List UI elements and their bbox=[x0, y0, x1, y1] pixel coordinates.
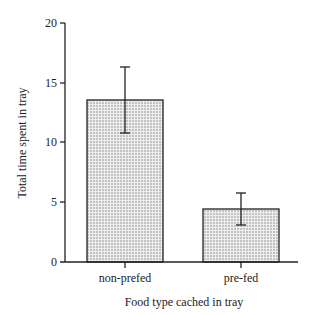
xtick-pre-fed: pre-fed bbox=[224, 271, 259, 285]
ytick-0: 0 bbox=[51, 255, 57, 269]
xtick-non-prefed: non-prefed bbox=[99, 271, 152, 285]
ytick-15: 15 bbox=[45, 76, 57, 90]
y-tick-labels: 20 15 10 5 0 bbox=[45, 16, 57, 269]
x-axis-title: Food type cached in tray bbox=[125, 295, 244, 309]
ytick-10: 10 bbox=[45, 135, 57, 149]
bar-chart: 20 15 10 5 0 non-prefed pre-fed Food typ… bbox=[0, 0, 314, 315]
bars bbox=[87, 100, 279, 262]
y-axis-title: Total time spent in tray bbox=[15, 87, 29, 198]
ytick-5: 5 bbox=[51, 195, 57, 209]
ytick-20: 20 bbox=[45, 16, 57, 30]
